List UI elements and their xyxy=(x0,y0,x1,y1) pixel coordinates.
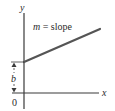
slope-equation: = slope xyxy=(40,21,72,32)
slope-label: m = slope xyxy=(33,21,73,32)
slope-intercept-diagram: y x 0 b m = slope xyxy=(0,0,115,111)
arrow-up-icon xyxy=(12,63,17,68)
slope-variable: m xyxy=(33,21,40,32)
diagram-canvas: y x 0 b m = slope xyxy=(0,0,115,111)
y-axis-label: y xyxy=(19,2,25,13)
origin-label: 0 xyxy=(12,97,17,108)
x-axis-label: x xyxy=(101,87,107,98)
slope-line xyxy=(24,29,100,62)
arrow-down-icon xyxy=(12,88,17,93)
intercept-label: b xyxy=(11,73,16,84)
